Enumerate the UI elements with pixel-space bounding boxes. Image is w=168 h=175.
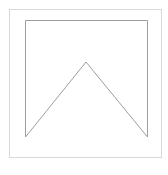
- line-drawing-figure: Pennant outline line drawing: [0, 0, 168, 175]
- outer-border-rectangle: [10, 10, 162, 158]
- drawing-canvas: Pennant outline line drawing: [0, 0, 168, 175]
- pennant-outline-shape: [26, 21, 148, 138]
